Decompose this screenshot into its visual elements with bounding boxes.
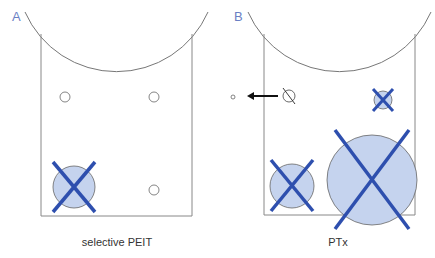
panel-a-caption: selective PEIT — [37, 236, 197, 248]
panel-b — [231, 12, 431, 229]
panel-b-caption: PTx — [258, 236, 418, 248]
arc-a — [25, 12, 208, 72]
arrow-head-icon — [247, 92, 254, 100]
nodule — [60, 92, 70, 102]
small-dot — [231, 95, 235, 99]
arc-b — [248, 12, 431, 72]
diagram-canvas — [0, 0, 435, 258]
panel-a — [25, 12, 208, 216]
nodule — [149, 92, 159, 102]
nodule — [149, 185, 159, 195]
